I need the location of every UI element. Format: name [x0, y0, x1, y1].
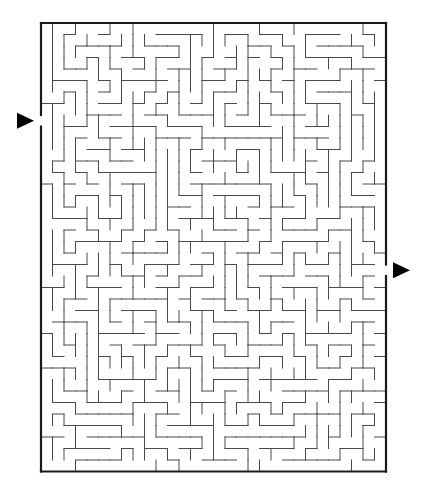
maze-walls — [41, 23, 386, 472]
maze-board — [0, 0, 426, 489]
exit-arrow-icon — [393, 262, 410, 278]
entrance-arrow-icon — [17, 113, 34, 129]
maze-border — [41, 23, 386, 472]
